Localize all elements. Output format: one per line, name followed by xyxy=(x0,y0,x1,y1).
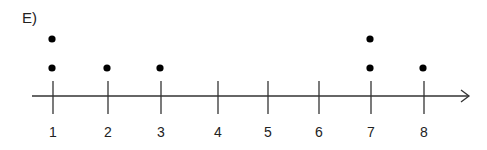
tick-label: 4 xyxy=(214,124,222,140)
data-dot xyxy=(48,64,55,71)
data-dot xyxy=(366,64,373,71)
tick-label: 5 xyxy=(264,124,272,140)
tick-label: 7 xyxy=(367,124,375,140)
tick-label: 3 xyxy=(157,124,165,140)
tick-label: 2 xyxy=(104,124,112,140)
tick-label: 1 xyxy=(49,124,57,140)
data-dot xyxy=(419,64,426,71)
data-dot xyxy=(366,35,373,42)
data-dot xyxy=(48,35,55,42)
data-dots xyxy=(48,35,426,71)
dot-plot: 12345678 xyxy=(0,0,487,150)
tick-label: 6 xyxy=(315,124,323,140)
data-dot xyxy=(156,64,163,71)
axis-ticks: 12345678 xyxy=(49,81,428,140)
number-line-axis xyxy=(32,90,469,102)
data-dot xyxy=(103,64,110,71)
tick-label: 8 xyxy=(420,124,428,140)
